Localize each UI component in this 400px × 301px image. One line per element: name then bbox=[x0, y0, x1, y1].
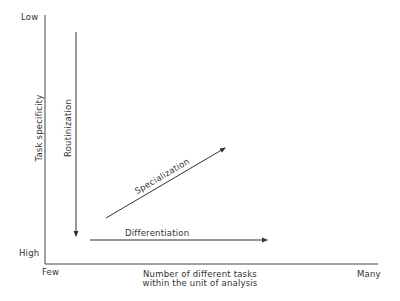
x-axis-title: Number of different tasks within the uni… bbox=[138, 270, 262, 288]
routinization-label: Routinization bbox=[63, 88, 73, 168]
x-axis-many-label: Many bbox=[357, 269, 381, 279]
x-axis-title-line2: within the unit of analysis bbox=[138, 279, 262, 288]
differentiation-label: Differentiation bbox=[125, 228, 189, 238]
diagram-canvas bbox=[0, 0, 400, 301]
y-axis-low-label: Low bbox=[21, 12, 38, 22]
y-axis-high-label: High bbox=[19, 248, 39, 258]
specialization-arrow bbox=[106, 148, 225, 218]
y-axis-title: Task specificity bbox=[34, 88, 44, 168]
x-axis-few-label: Few bbox=[42, 267, 59, 277]
